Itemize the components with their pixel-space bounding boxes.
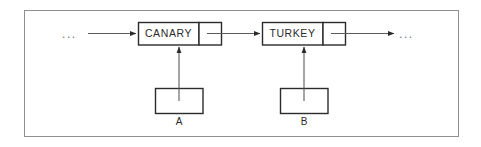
node-canary-label: CANARY [138,27,199,39]
ellipsis-right: ... [399,27,414,41]
pointer-variable-label-b: B [280,116,328,127]
linked-list-figure: CANARY TURKEY A B ... ... [0,0,481,147]
diagram-canvas [0,0,481,147]
pointer-variable-label-a: A [155,116,203,127]
ellipsis-left: ... [62,27,77,41]
node-turkey-label: TURKEY [262,27,323,39]
